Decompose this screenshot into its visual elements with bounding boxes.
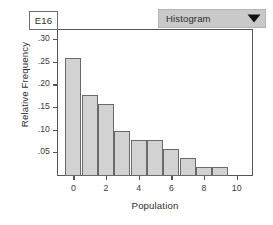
y-axis-tick-label: .20 [38, 78, 50, 88]
y-axis-tick-label: .05 [38, 146, 50, 156]
y-axis-tick: .05 [53, 152, 57, 153]
x-axis-tick [73, 176, 74, 180]
x-axis-tick [171, 176, 172, 180]
y-axis-tick-label: .15 [38, 101, 50, 111]
cell-reference-label: E16 [35, 15, 53, 26]
histogram-bar [163, 149, 179, 176]
y-axis-tick: .25 [53, 62, 57, 63]
histogram-bar [212, 167, 228, 176]
y-axis-tick: .15 [53, 107, 57, 108]
x-axis-title: Population [57, 200, 253, 211]
x-axis-tick-label: 0 [71, 183, 76, 193]
y-axis-tick: .10 [53, 130, 57, 131]
x-axis-tick-label: 2 [104, 183, 109, 193]
y-axis-tick: .30 [53, 39, 57, 40]
chart-type-dropdown-label: Histogram [159, 13, 243, 24]
cell-reference-box[interactable]: E16 [29, 11, 58, 30]
y-axis-tick-label: .10 [38, 124, 50, 134]
histogram-bar [82, 95, 98, 176]
x-axis-tick [106, 176, 107, 180]
x-axis-tick-label: 8 [202, 183, 207, 193]
x-axis-tick [237, 176, 238, 180]
y-axis-tick: .20 [53, 84, 57, 85]
x-axis-tick [204, 176, 205, 180]
x-axis-tick [139, 176, 140, 180]
histogram-bar [147, 140, 163, 176]
histogram-bar [114, 131, 130, 176]
y-axis-tick-label: .30 [38, 33, 50, 43]
histogram-bar [180, 158, 196, 176]
x-axis-tick-label: 4 [136, 183, 141, 193]
x-axis-tick-label: 6 [169, 183, 174, 193]
y-axis-line [57, 29, 58, 176]
histogram-bar [98, 104, 114, 176]
y-axis-title: Relative Frequency [19, 17, 30, 153]
histogram-bar [65, 58, 81, 176]
histogram-panel: E16 Histogram .05.10.15.20.25.30 0246810… [0, 0, 273, 225]
chart-plot-area: .05.10.15.20.25.30 0246810 [57, 29, 253, 176]
triangle-down-icon[interactable] [243, 14, 265, 23]
histogram-bar [131, 140, 147, 176]
histogram-bar [196, 167, 212, 176]
y-axis-tick-label: .25 [38, 56, 50, 66]
x-axis-tick-label: 10 [232, 183, 242, 193]
chart-type-dropdown[interactable]: Histogram [158, 9, 266, 28]
